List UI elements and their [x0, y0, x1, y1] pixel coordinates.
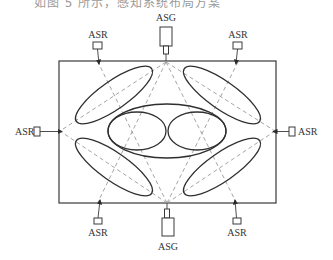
- asr-top-right: ASR: [228, 29, 248, 64]
- asg-bottom: ASG: [158, 203, 178, 252]
- zone-center-left: [108, 112, 166, 150]
- asg-bottom-label: ASG: [158, 241, 178, 252]
- asr-right: ASR: [273, 126, 318, 137]
- asr-left: ASR: [15, 126, 62, 137]
- asr-top-left: ASR: [88, 29, 108, 64]
- asg-bottom-lens-icon: [165, 209, 170, 218]
- asr-bottom-left-icon: [94, 218, 102, 224]
- asr-right-label: ASR: [298, 126, 318, 137]
- asr-top-left-label: ASR: [88, 29, 108, 40]
- zone-center-outer: [108, 104, 226, 158]
- asg-bottom-body-icon: [162, 218, 174, 236]
- asr-top-right-icon: [233, 42, 242, 49]
- asr-bottom-right-icon: [233, 218, 241, 224]
- asr-left-icon: [34, 127, 40, 136]
- asg-top-lens-icon: [164, 46, 169, 54]
- asg-top-body-icon: [160, 27, 172, 46]
- asr-top-left-icon: [93, 42, 102, 49]
- asr-bottom-left-label: ASR: [88, 227, 108, 238]
- asg-top-label: ASG: [156, 12, 176, 23]
- asr-top-right-label: ASR: [228, 29, 248, 40]
- asr-bottom-left: ASR: [88, 200, 108, 238]
- asr-left-label: ASR: [15, 126, 35, 137]
- sensor-layout-diagram: ASG ASG ASR ASR ASR ASR ASR: [0, 0, 333, 260]
- asr-bottom-right-label: ASR: [227, 227, 247, 238]
- asr-bottom-right: ASR: [227, 200, 247, 238]
- asr-right-icon: [289, 127, 295, 136]
- asg-top: ASG: [156, 12, 176, 61]
